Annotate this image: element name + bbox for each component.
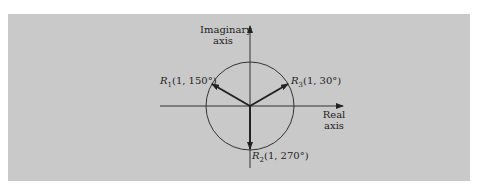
phasor-r3-arrow xyxy=(250,84,288,106)
real-axis-label: Real axis xyxy=(322,109,346,131)
phasor-r1-label: R1(1, 150°) xyxy=(160,75,217,91)
phasor-r3-label: R3(1, 30°) xyxy=(291,75,341,91)
phasor-r1-arrow xyxy=(212,84,250,106)
imaginary-axis-label: Imaginary axis xyxy=(200,24,246,46)
phasor-r2-label: R2(1, 270°) xyxy=(252,150,309,166)
